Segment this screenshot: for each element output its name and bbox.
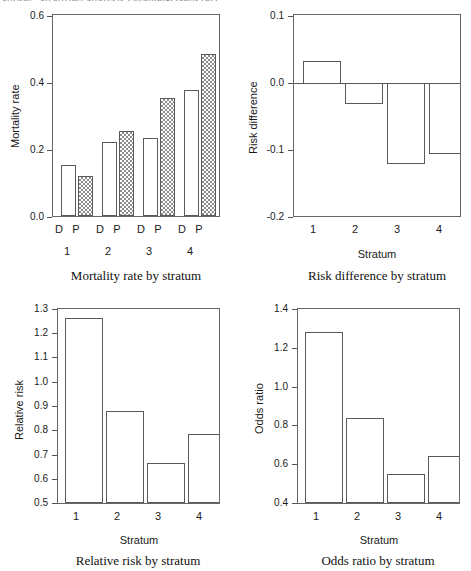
odds-ratio-ytick-2: [292, 425, 297, 426]
risk-difference-ytick-0: [288, 217, 293, 218]
risk-difference-ytick-3: [288, 16, 293, 17]
relative-risk-y-axis-title: Relative risk: [13, 380, 25, 440]
bar-odds-ratio-s4: [428, 456, 459, 503]
relative-risk-plot-area: [58, 309, 219, 503]
mortality-ytick-2: [47, 83, 52, 84]
risk-difference-xtick-label-4: 4: [427, 224, 451, 235]
odds-ratio-xtick-label-4: 4: [427, 511, 451, 522]
mortality-group-label-3: 3: [129, 246, 169, 257]
mortality-xlabel-s1-p: P: [65, 224, 87, 235]
odds-ratio-ytick-4: [292, 348, 297, 349]
mortality-ytick-label-3: 0.6: [10, 11, 44, 21]
risk-difference-x-axis-title: Stratum: [297, 248, 457, 260]
bar-relative-risk-s2: [106, 411, 144, 503]
bar-mortality-s1-d: [61, 165, 76, 216]
figure-panel-grid: Subset: Stratified analysis (Mantel-Haen…: [0, 0, 471, 571]
bar-relative-risk-s1: [65, 318, 103, 503]
relative-risk-x-axis-title: Stratum: [58, 534, 220, 546]
relative-risk-ytick-7: [52, 333, 57, 334]
odds-ratio-caption: Odds ratio by stratum: [258, 553, 471, 569]
risk-difference-xtick-label-3: 3: [385, 224, 409, 235]
odds-ratio-ytick-1: [292, 464, 297, 465]
odds-ratio-xtick-label-1: 1: [304, 511, 328, 522]
risk-difference-ytick-label-3: 0.1: [248, 11, 284, 21]
risk-difference-ytick-1: [288, 150, 293, 151]
bar-mortality-s4-p: [201, 54, 216, 216]
mortality-xlabel-s4-p: P: [188, 224, 210, 235]
relative-risk-ytick-2: [52, 455, 57, 456]
bar-odds-ratio-s2: [346, 418, 384, 503]
relative-risk-ytick-1: [52, 479, 57, 480]
odds-ratio-x-axis-title: Stratum: [298, 534, 460, 546]
bar-odds-ratio-s3: [387, 474, 425, 503]
odds-ratio-ytick-label-0: 0.4: [254, 498, 288, 508]
risk-difference-y-axis-title: Risk difference: [247, 81, 259, 154]
bar-mortality-s2-p: [119, 131, 134, 216]
bar-mortality-s3-p: [160, 98, 175, 216]
risk-difference-caption: Risk difference by stratum: [257, 268, 471, 284]
mortality-group-label-1: 1: [47, 246, 87, 257]
relative-risk-ytick-5: [52, 382, 57, 383]
risk-difference-ytick-2: [288, 83, 293, 84]
relative-risk-ytick-8: [52, 309, 57, 310]
relative-risk-xtick-label-1: 1: [64, 511, 88, 522]
relative-risk-ytick-label-7: 1.2: [14, 328, 48, 338]
relative-risk-xtick-label-3: 3: [146, 511, 170, 522]
mortality-group-label-4: 4: [170, 246, 210, 257]
mortality-ytick-label-0: 0.0: [10, 212, 44, 222]
bar-risk-difference-s3: [387, 83, 425, 164]
bar-relative-risk-s3: [147, 463, 185, 503]
odds-ratio-xtick-label-3: 3: [386, 511, 410, 522]
risk-difference-plot-area: [294, 15, 460, 216]
bar-mortality-s4-d: [184, 90, 199, 216]
relative-risk-xtick-label-2: 2: [105, 511, 129, 522]
risk-difference-xtick-label-2: 2: [343, 224, 367, 235]
relative-risk-ytick-3: [52, 430, 57, 431]
odds-ratio-ytick-label-1: 0.6: [254, 459, 288, 469]
relative-risk-ytick-label-0: 0.5: [14, 498, 48, 508]
odds-ratio-y-axis-title: Odds ratio: [253, 383, 265, 434]
mortality-xlabel-s2-p: P: [106, 224, 128, 235]
relative-risk-ytick-6: [52, 357, 57, 358]
mortality-ytick-1: [47, 150, 52, 151]
relative-risk-ytick-0: [52, 503, 57, 504]
relative-risk-ytick-label-8: 1.3: [14, 304, 48, 314]
relative-risk-ytick-4: [52, 406, 57, 407]
mortality-caption: Mortality rate by stratum: [16, 268, 256, 284]
odds-ratio-ytick-3: [292, 387, 297, 388]
odds-ratio-plot-frame: [297, 308, 460, 504]
risk-difference-xtick-label-1: 1: [301, 224, 325, 235]
bar-mortality-s2-d: [102, 142, 117, 216]
odds-ratio-ytick-label-5: 1.4: [254, 304, 288, 314]
bar-risk-difference-s4: [429, 83, 460, 154]
odds-ratio-ytick-label-4: 1.2: [254, 343, 288, 353]
mortality-group-label-2: 2: [88, 246, 128, 257]
odds-ratio-xtick-label-2: 2: [345, 511, 369, 522]
risk-difference-ytick-label-0: -0.2: [248, 212, 284, 222]
risk-difference-plot-frame: [293, 14, 461, 217]
relative-risk-plot-frame: [57, 308, 220, 504]
bar-relative-risk-s4: [188, 434, 219, 503]
bar-odds-ratio-s1: [305, 332, 343, 503]
relative-risk-ytick-label-2: 0.7: [14, 450, 48, 460]
mortality-ytick-0: [47, 217, 52, 218]
mortality-y-axis-title: Mortality rate: [9, 84, 21, 148]
bar-mortality-s1-p: [78, 176, 93, 216]
mortality-ytick-3: [47, 16, 52, 17]
odds-ratio-ytick-5: [292, 309, 297, 310]
odds-ratio-plot-area: [298, 309, 459, 503]
bar-mortality-s3-d: [143, 138, 158, 216]
odds-ratio-ytick-0: [292, 503, 297, 504]
relative-risk-ytick-label-6: 1.1: [14, 352, 48, 362]
mortality-xlabel-s3-p: P: [147, 224, 169, 235]
relative-risk-ytick-label-1: 0.6: [14, 474, 48, 484]
mortality-plot-area: [53, 15, 219, 216]
truncated-header-text: Subset: Stratified analysis (Mantel-Haen…: [0, 0, 471, 1]
relative-risk-xtick-label-4: 4: [187, 511, 211, 522]
mortality-plot-frame: [52, 14, 220, 217]
relative-risk-caption: Relative risk by stratum: [18, 553, 258, 569]
bar-risk-difference-s1: [303, 61, 341, 84]
bar-risk-difference-s2: [345, 83, 383, 104]
